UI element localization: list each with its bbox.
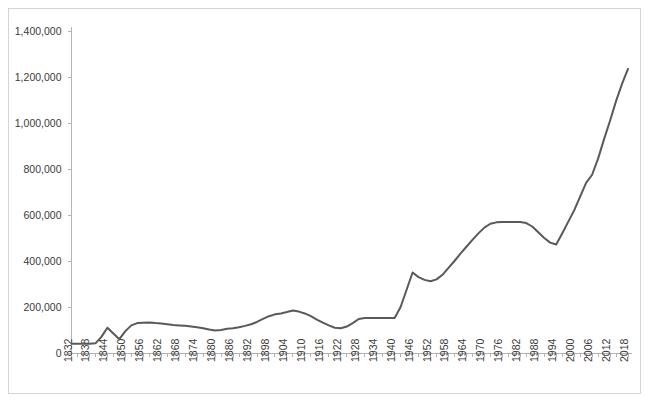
x-tick-label: 1838 [79,338,91,362]
series-line-series-1 [72,69,629,344]
y-tick-label: 800,000 [24,163,62,175]
x-tick-label: 1874 [187,338,199,362]
x-tick-label: 1994 [546,338,558,362]
x-tick-label: 2006 [582,338,594,362]
y-tick-label: 400,000 [24,255,62,267]
y-tick-label: 200,000 [24,301,62,313]
x-tick-label: 1910 [295,338,307,362]
x-tick-label: 1946 [403,338,415,362]
line-chart: 0200,000400,000600,000800,0001,000,0001,… [0,0,651,404]
x-tick-label: 2000 [564,338,576,362]
y-tick-label: 600,000 [24,209,62,221]
data-series [72,69,629,344]
x-tick-label: 2018 [618,338,630,362]
x-tick-label: 1940 [385,338,397,362]
x-tick-label: 1964 [456,338,468,362]
x-tick-label: 1934 [367,338,379,362]
x-tick-label: 1904 [277,338,289,362]
x-tick-label: 1970 [474,338,486,362]
x-tick-label: 1988 [528,338,540,362]
x-tick-label: 1880 [205,338,217,362]
x-tick-label: 1862 [151,338,163,362]
x-tick-label: 1886 [223,338,235,362]
x-tick-label: 2012 [600,338,612,362]
y-tick-label: 1,400,000 [15,25,62,37]
x-tick-label: 1850 [115,338,127,362]
x-tick-label: 1898 [259,338,271,362]
x-tick-label: 1868 [169,338,181,362]
y-axis: 0200,000400,000600,000800,0001,000,0001,… [15,25,72,359]
x-tick-label: 1832 [62,338,74,362]
chart-container: 0200,000400,000600,000800,0001,000,0001,… [0,0,651,404]
x-tick-label: 1976 [492,338,504,362]
x-tick-label: 1844 [97,338,109,362]
x-tick-label: 1982 [510,338,522,362]
y-tick-label: 1,200,000 [15,71,62,83]
x-tick-label: 1892 [241,338,253,362]
x-tick-label: 1856 [133,338,145,362]
x-tick-label: 1922 [331,338,343,362]
x-axis: 1832183818441850185618621868187418801886… [62,338,633,362]
x-tick-label: 1952 [421,338,433,362]
y-tick-label: 1,000,000 [15,117,62,129]
x-tick-label: 1958 [438,338,450,362]
x-tick-label: 1916 [313,338,325,362]
x-tick-label: 1928 [349,338,361,362]
